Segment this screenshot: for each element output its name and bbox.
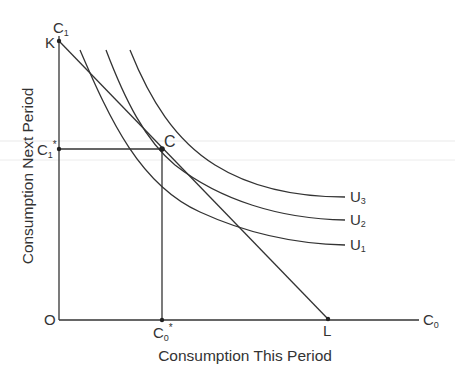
indifference-curve-u1 [80,50,345,245]
point-k [57,39,61,43]
point-c0-star [160,318,164,322]
x-axis-end-label: C0 [423,311,439,330]
origin-label: O [44,311,56,328]
curve-u3-label: U3 [350,188,366,206]
point-c0-star-label: C0* [153,322,173,343]
point-c1-star-label: C1* [37,139,57,160]
curve-u2-label: U2 [350,211,366,229]
y-axis-end-label: C1 [53,19,69,38]
y-axis-title: Consumption Next Period [19,88,36,265]
budget-line [59,41,328,319]
x-axis-title: Consumption This Period [158,347,332,364]
curve-u1-label: U1 [350,236,366,254]
intertemporal-choice-diagram: C1 K C1* C O C0* L C0 U3 U2 U1 Consumpti… [0,0,455,382]
point-c-label: C [164,133,176,150]
point-l [326,317,330,321]
point-l-label: L [323,322,331,339]
point-k-label: K [45,34,55,51]
point-c1-star [57,147,61,151]
